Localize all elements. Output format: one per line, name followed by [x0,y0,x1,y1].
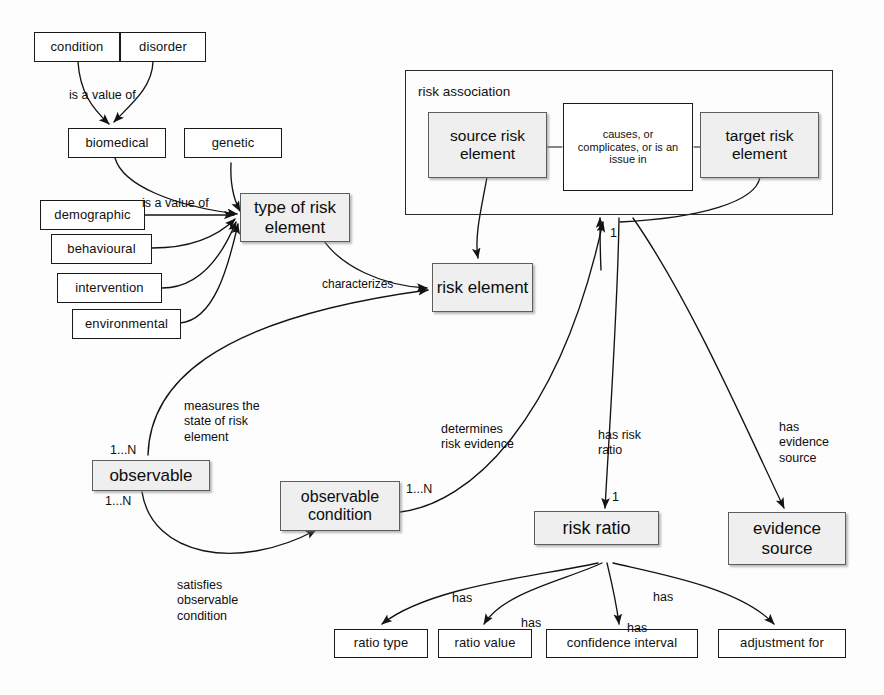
edge-label-has-evidence-source: has evidence source [779,404,829,467]
node-confidence-interval-label: confidence interval [567,636,677,651]
cardinality-observable-condition-right-text: 1...N [406,482,432,496]
node-genetic-label: genetic [212,136,255,151]
edge-label-has-risk-ratio-text: has risk ratio [598,428,641,458]
cardinality-observable-top: 1...N [110,443,136,457]
node-target-risk-element-label: target risk element [701,127,818,163]
edge-label-has-ratio-value: has [521,600,541,631]
edge-label-has-risk-ratio: has risk ratio [598,412,641,459]
node-genetic[interactable]: genetic [184,128,282,158]
edge-has-confidence-interval [607,563,619,624]
edge-intervention-type [162,222,236,288]
cardinality-observable-condition-right: 1...N [406,482,432,496]
cardinality-risk-element-up: 1 [610,226,617,240]
node-source-risk-element[interactable]: source risk element [428,112,547,178]
edge-label-has-confidence-interval: has [627,605,647,636]
node-confidence-interval[interactable]: confidence interval [546,629,698,658]
node-behavioural[interactable]: behavioural [51,234,152,264]
node-risk-element-label: risk element [437,278,529,298]
node-condition[interactable]: condition [34,32,120,62]
cardinality-observable-top-text: 1...N [110,443,136,457]
edge-label-determines-risk-evidence-text: determines risk evidence [441,422,514,452]
edge-label-satisfies: satisfies observable condition [177,562,238,625]
edge-has-ratio-value [484,563,602,624]
edge-environmental-type [180,224,238,323]
edge-label-has-adjustment-for: has [653,574,673,605]
edge-genetic-type [231,163,240,211]
diagram-canvas: condition disorder biomedical genetic de… [0,0,884,695]
edge-hub-up [600,218,601,270]
cardinality-observable-bottom-text: 1...N [105,494,131,508]
cardinality-risk-element-up-text: 1 [610,226,617,240]
edge-behavioural-type [152,219,235,248]
node-biomedical[interactable]: biomedical [68,128,166,158]
node-ratio-value[interactable]: ratio value [438,629,532,658]
node-adjustment-for-label: adjustment for [740,636,824,651]
node-condition-label: condition [51,40,104,55]
node-type-of-risk-element-label: type of risk element [241,198,349,237]
edge-label-is-a-value-of-1: is a value of [69,72,136,103]
node-observable-condition-label: observable condition [281,488,399,525]
node-disorder[interactable]: disorder [120,32,206,62]
cardinality-observable-bottom: 1...N [105,494,131,508]
node-type-of-risk-element[interactable]: type of risk element [240,193,350,242]
edge-label-determines-risk-evidence: determines risk evidence [441,406,514,453]
edge-label-is-a-value-of-2: is a value of [142,180,209,211]
edge-label-characterizes: characterizes [322,262,393,292]
node-target-risk-element[interactable]: target risk element [700,112,819,178]
node-demographic[interactable]: demographic [40,200,145,230]
node-demographic-label: demographic [54,208,130,223]
node-environmental[interactable]: environmental [72,309,181,339]
node-risk-ratio[interactable]: risk ratio [534,511,659,545]
node-evidence-source-label: evidence source [729,519,845,558]
edge-has-risk-ratio [605,218,619,508]
node-environmental-label: environmental [85,317,168,332]
edge-label-has-adjustment-for-text: has [653,590,673,604]
edge-label-has-confidence-interval-text: has [627,621,647,635]
edge-label-measures-state: measures the state of risk element [184,383,260,446]
edge-has-ratio-type [382,563,598,624]
edge-label-is-a-value-of-2-text: is a value of [142,196,209,210]
node-risk-ratio-label: risk ratio [562,518,630,539]
node-observable-label: observable [109,466,192,486]
relationship-diamond-label: causes, or complicates, or is an issue i… [572,122,684,172]
node-evidence-source[interactable]: evidence source [728,512,846,565]
node-ratio-type-label: ratio type [354,636,408,651]
cardinality-risk-ratio-in: 1 [612,490,619,504]
relationship-diamond-text: causes, or complicates, or is an issue i… [572,128,684,167]
node-ratio-value-label: ratio value [454,636,515,651]
node-behavioural-label: behavioural [67,242,135,257]
node-disorder-label: disorder [139,40,187,55]
node-risk-element[interactable]: risk element [432,263,533,312]
node-observable-condition[interactable]: observable condition [280,481,400,531]
edge-label-is-a-value-of-1-text: is a value of [69,88,136,102]
cardinality-risk-ratio-in-text: 1 [612,490,619,504]
edge-label-measures-state-text: measures the state of risk element [184,399,260,444]
risk-association-title: risk association [418,84,510,99]
edge-label-satisfies-text: satisfies observable condition [177,578,238,623]
node-intervention[interactable]: intervention [57,273,162,303]
edge-label-has-ratio-value-text: has [521,616,541,630]
edge-has-evidence-source [633,218,784,508]
edge-label-has-evidence-source-text: has evidence source [779,420,829,465]
node-source-risk-element-label: source risk element [429,127,546,163]
node-biomedical-label: biomedical [85,136,148,151]
node-intervention-label: intervention [75,281,143,296]
edge-label-has-ratio-type: has [452,575,472,606]
risk-association-title-label: risk association [418,84,510,99]
edge-label-has-ratio-type-text: has [452,591,472,605]
node-adjustment-for[interactable]: adjustment for [718,629,846,658]
node-observable[interactable]: observable [92,460,210,491]
node-ratio-type[interactable]: ratio type [334,629,428,658]
edge-label-characterizes-text: characterizes [322,277,393,291]
